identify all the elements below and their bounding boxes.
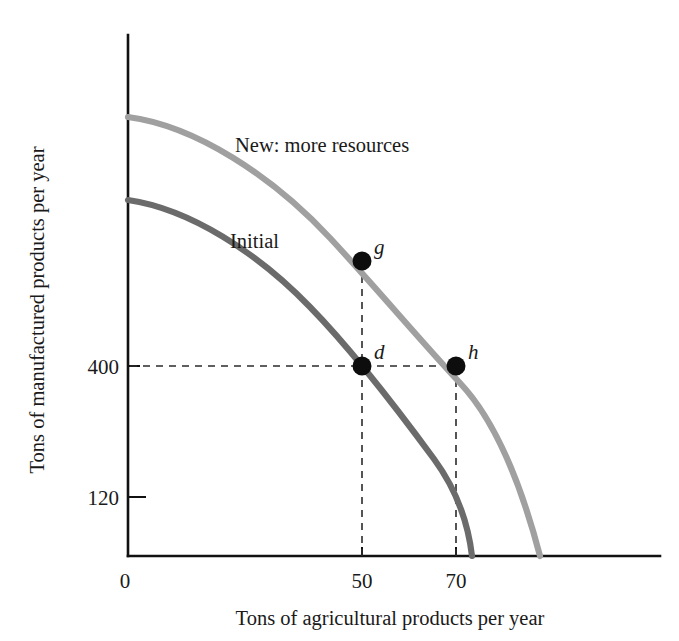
x-tick-label-70: 70 [446,569,467,593]
y-axis-title: Tons of manufactured products per year [26,146,49,473]
x-tick-label-50: 50 [352,569,373,593]
data-point-label-g: g [374,235,385,259]
data-point-g[interactable] [353,252,372,271]
x-axis-title: Tons of agricultural products per year [236,607,545,630]
ppf-chart: g d h New: more resources Initial 400 12… [0,0,679,641]
chart-background [0,0,679,641]
data-point-label-d: d [374,340,385,364]
data-point-h[interactable] [447,357,466,376]
data-point-d[interactable] [353,357,372,376]
chart-canvas: g d h New: more resources Initial 400 12… [0,0,679,641]
curve-label-new: New: more resources [235,134,409,156]
data-point-label-h: h [468,340,479,364]
y-tick-label-120: 120 [88,486,120,510]
curve-label-initial: Initial [230,230,279,252]
x-tick-label-0: 0 [120,569,131,593]
y-tick-label-400: 400 [88,355,120,379]
